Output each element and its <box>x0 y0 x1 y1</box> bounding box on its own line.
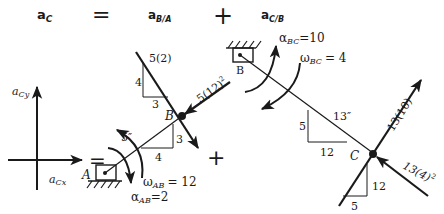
alpha-bc-arrow <box>245 46 276 92</box>
length-bc: 13″ <box>333 110 351 123</box>
label-b-support: B <box>236 64 244 77</box>
omega-bc-arrow <box>262 63 300 109</box>
label-c: C <box>350 149 359 163</box>
acceleration-vector-diagram: aC = aB/A + aC/B aCy aCx = A 5″ 3 4 <box>0 0 444 214</box>
alpha-bc-label: αBC=10 <box>279 31 325 46</box>
tri-ab-rise: 3 <box>176 133 183 146</box>
link-ab <box>105 116 182 173</box>
label-a: A <box>81 168 91 182</box>
equals-sign-header: = <box>92 2 110 27</box>
omega-bc-label: ωBC= 4 <box>300 51 347 66</box>
normal-accel-b-label: 5(12)2 <box>194 74 230 105</box>
tri-bc-run: 12 <box>320 146 334 159</box>
label-b: B <box>164 109 174 123</box>
equals-sign-components: = <box>89 148 106 172</box>
pin-support-b <box>233 48 253 62</box>
tri-tan-c-run: 5 <box>351 200 358 213</box>
ground-hatch-a <box>87 181 120 188</box>
tri-tan-b-run: 3 <box>152 98 159 111</box>
normal-accel-c-label: 13(4)2 <box>401 158 438 186</box>
equation-header: aC = aB/A + aC/B <box>37 2 284 30</box>
link-bc-diagram: B 13″ 5 12 αBC=10 ωBC= 4 C 13(10) 12 5 1… <box>226 31 437 213</box>
tri-tan-c-rise: 12 <box>372 180 386 193</box>
term-ab-a: aB/A <box>148 8 171 24</box>
tangential-accel-b-label: 5(2) <box>149 52 172 65</box>
ax-label: aCx <box>49 173 67 187</box>
component-axes: aCy aCx = <box>8 85 106 190</box>
term-ac: aC <box>37 7 53 24</box>
tangential-accel-c-label: 13(10) <box>385 96 415 134</box>
alpha-ab-label: αAB=2 <box>131 190 168 205</box>
link-ab-diagram: A 5″ 3 4 ωAB= 12 αAB=2 B 5(2) 4 3 5(12)2 <box>81 52 230 205</box>
omega-ab-label: ωAB= 12 <box>143 175 197 190</box>
ground-hatch-b <box>228 41 261 48</box>
triangle-ab <box>141 124 173 148</box>
plus-sign-components: + <box>207 145 225 170</box>
tri-tan-b-rise: 4 <box>135 76 142 89</box>
plus-sign-header: + <box>213 2 233 30</box>
tri-bc-rise: 5 <box>299 120 306 133</box>
ay-label: aCy <box>12 85 30 99</box>
tri-ab-run: 4 <box>155 151 162 164</box>
link-bc <box>240 55 373 153</box>
tangential-accel-b-arrow <box>136 52 198 148</box>
term-ac-b: aC/B <box>261 8 284 24</box>
